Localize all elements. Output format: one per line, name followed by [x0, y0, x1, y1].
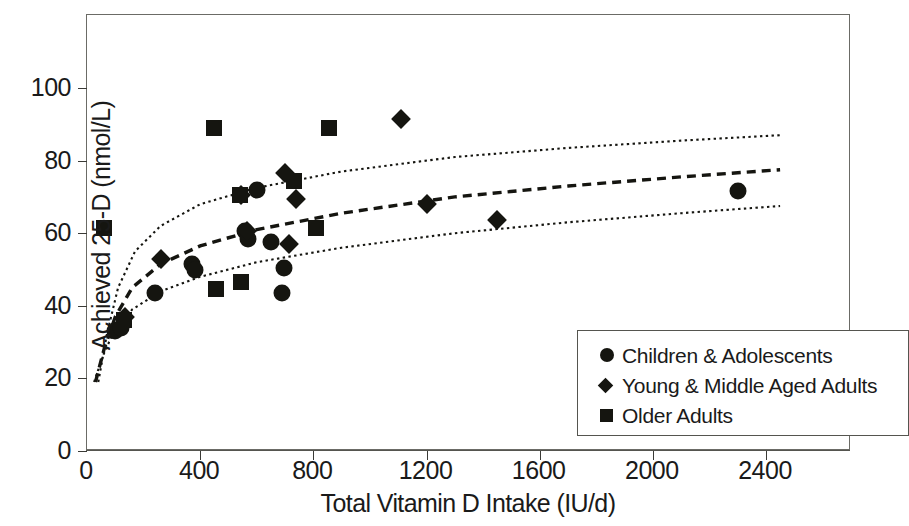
data-point-circle	[262, 234, 279, 251]
data-point-square	[233, 274, 249, 290]
data-point-diamond	[391, 109, 411, 129]
data-point-square	[308, 220, 324, 236]
circle-marker-icon	[600, 348, 622, 362]
data-point-circle	[275, 259, 292, 276]
data-point-diamond	[279, 234, 299, 254]
legend-item-young-middle-adults: Young & Middle Aged Adults	[600, 370, 908, 400]
y-tick-label-20: 20	[0, 363, 71, 392]
data-point-square	[116, 312, 132, 328]
data-point-square	[232, 187, 248, 203]
data-point-circle	[274, 285, 291, 302]
legend-label-children: Children & Adolescents	[622, 345, 833, 366]
x-axis-title: Total Vitamin D Intake (IU/d)	[86, 489, 850, 518]
y-tick-label-100: 100	[0, 73, 71, 102]
x-tick-label-800: 800	[292, 456, 332, 485]
x-axis-line	[86, 450, 850, 451]
data-point-diamond	[487, 211, 507, 231]
square-marker-icon	[600, 409, 622, 422]
y-tick-label-60: 60	[0, 218, 71, 247]
data-point-diamond	[286, 189, 306, 209]
data-point-square	[206, 120, 222, 136]
y-tick-label-40: 40	[0, 290, 71, 319]
diamond-marker-icon	[600, 380, 622, 391]
x-tick-label-2400: 2400	[738, 456, 792, 485]
data-point-circle	[248, 181, 265, 198]
data-point-square	[286, 173, 302, 189]
data-point-circle	[146, 285, 163, 302]
data-point-square	[208, 281, 224, 297]
x-tick-label-400: 400	[179, 456, 219, 485]
legend-label-older-adults: Older Adults	[622, 405, 733, 426]
legend-item-children: Children & Adolescents	[600, 340, 908, 370]
data-point-diamond	[151, 249, 171, 269]
y-tick-label-80: 80	[0, 145, 71, 174]
data-point-circle	[729, 183, 746, 200]
x-tick-label-0: 0	[79, 456, 92, 485]
x-tick-label-1600: 1600	[512, 456, 566, 485]
y-axis-title: Achieved 25-D (nmol/L)	[87, 16, 116, 436]
y-tick-label-0: 0	[0, 436, 71, 465]
legend-label-young-middle-adults: Young & Middle Aged Adults	[622, 375, 877, 396]
data-point-circle	[186, 261, 203, 278]
x-tick-label-2000: 2000	[625, 456, 679, 485]
y-tick-0	[78, 451, 87, 452]
data-point-square	[321, 120, 337, 136]
chart-legend: Children & Adolescents Young & Middle Ag…	[577, 330, 909, 436]
x-tick-label-1200: 1200	[399, 456, 453, 485]
legend-item-older-adults: Older Adults	[600, 400, 908, 430]
data-point-diamond	[417, 194, 437, 214]
plot-area: Children & Adolescents Young & Middle Ag…	[86, 14, 850, 450]
